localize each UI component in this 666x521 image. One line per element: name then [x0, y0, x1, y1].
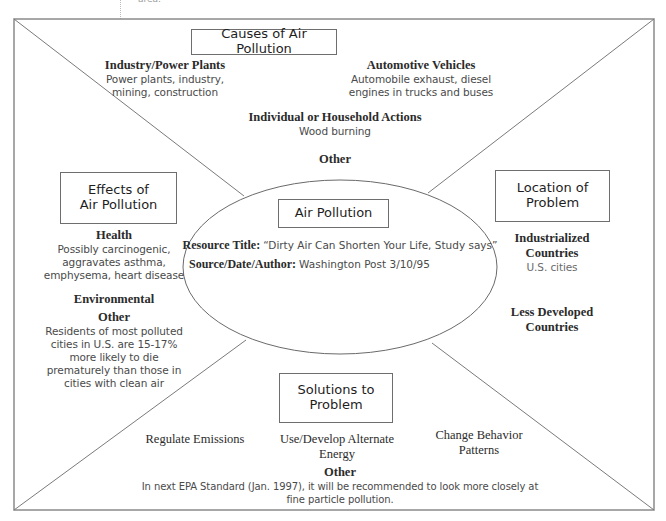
location-heading-line: Countries [500, 246, 604, 261]
effect-other: Other Residents of most polluted cities … [34, 310, 194, 390]
solution-heading-line: Use/Develop Alternate [268, 432, 406, 447]
effects-title-line: Effects of [88, 183, 149, 198]
location-title-line: Location of [517, 181, 589, 196]
effects-title-box: Effects of Air Pollution [60, 172, 177, 224]
cause-heading: Industry/Power Plants [90, 58, 240, 73]
effect-detail-line: cities with clean air [34, 377, 194, 390]
location-heading-line: Industrialized [500, 231, 604, 246]
location-heading-line: Countries [495, 320, 609, 335]
cause-detail-line: mining, construction [90, 86, 240, 99]
center-title: Air Pollution [295, 206, 373, 221]
effect-environmental: Environmental [44, 292, 184, 307]
effect-detail-line: Residents of most polluted [34, 325, 194, 338]
cause-detail-line: Power plants, industry, [90, 73, 240, 86]
effect-heading: Other [34, 310, 194, 325]
resource-title-line: Resource Title: “Dirty Air Can Shorten Y… [180, 238, 500, 253]
solution-other-detail-line: In next EPA Standard (Jan. 1997), it wil… [90, 480, 590, 493]
solution-regulate: Regulate Emissions [130, 432, 260, 447]
solution-heading-line: Energy [268, 447, 406, 462]
cause-heading: Automotive Vehicles [336, 58, 506, 73]
solutions-title-box: Solutions to Problem [279, 373, 393, 423]
solutions-title-line: Solutions to [298, 383, 375, 398]
solution-behavior: Change Behavior Patterns [424, 428, 534, 458]
solution-other: Other In next EPA Standard (Jan. 1997), … [90, 465, 590, 506]
center-title-box: Air Pollution [278, 199, 389, 228]
cause-heading: Other [290, 152, 380, 167]
cause-detail-line: engines in trucks and buses [336, 86, 506, 99]
effect-detail-line: Possibly carcinogenic, [34, 243, 194, 256]
effect-detail-line: aggravates asthma, [34, 256, 194, 269]
effect-detail-line: prematurely than those in [34, 364, 194, 377]
cause-household: Individual or Household Actions Wood bur… [230, 110, 440, 138]
resource-title-value: “Dirty Air Can Shorten Your Life, Study … [263, 239, 497, 251]
cause-heading: Individual or Household Actions [230, 110, 440, 125]
causes-title: Causes of Air Pollution [192, 27, 336, 57]
source-label: Source/Date/Author: [189, 257, 296, 271]
effect-heading: Health [34, 228, 194, 243]
effect-detail-line: more likely to die [34, 351, 194, 364]
solution-other-detail-line: fine particle pollution. [90, 493, 590, 506]
location-heading-line: Less Developed [495, 305, 609, 320]
location-title-box: Location of Problem [495, 170, 610, 222]
cause-detail-line: Wood burning [230, 125, 440, 138]
causes-title-box: Causes of Air Pollution [191, 29, 337, 55]
effect-detail-line: emphysema, heart disease [34, 269, 194, 282]
concept-map: area. Causes of Air Pollution Industry/P… [0, 0, 666, 521]
effect-health: Health Possibly carcinogenic, aggravates… [34, 228, 194, 282]
solution-other-heading: Other [90, 465, 590, 480]
source-line: Source/Date/Author: Washington Post 3/10… [189, 257, 489, 272]
solution-heading-line: Change Behavior [424, 428, 534, 443]
cause-industry: Industry/Power Plants Power plants, indu… [90, 58, 240, 99]
effects-title-line: Air Pollution [80, 198, 158, 213]
cause-detail-line: Automobile exhaust, diesel [336, 73, 506, 86]
diagonal-top-right [428, 19, 654, 193]
location-detail-line: U.S. cities [500, 261, 604, 274]
location-title-line: Problem [526, 196, 579, 211]
cause-automotive: Automotive Vehicles Automobile exhaust, … [336, 58, 506, 99]
solution-heading-line: Regulate Emissions [130, 432, 260, 447]
solutions-title-line: Problem [309, 398, 362, 413]
resource-title-label: Resource Title: [183, 238, 261, 252]
location-industrialized: Industrialized Countries U.S. cities [500, 231, 604, 274]
effect-detail-line: cities in U.S. are 15-17% [34, 338, 194, 351]
effect-heading: Environmental [44, 292, 184, 307]
solution-alternate-energy: Use/Develop Alternate Energy [268, 432, 406, 462]
source-value: Washington Post 3/10/95 [299, 258, 430, 270]
cause-other: Other [290, 152, 380, 167]
solution-heading-line: Patterns [424, 443, 534, 458]
location-less-developed: Less Developed Countries [495, 305, 609, 335]
